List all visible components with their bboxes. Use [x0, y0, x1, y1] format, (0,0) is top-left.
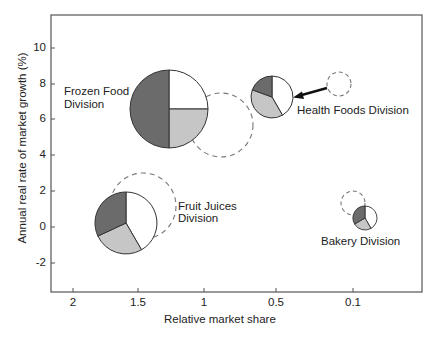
x-tick-label: 2 — [58, 296, 88, 308]
fruit-juices-label-line1: Fruit Juices — [178, 200, 237, 212]
x-tick-label: 0.1 — [338, 296, 368, 308]
bakery-label: Bakery Division — [321, 235, 400, 247]
health-foods-label: Health Foods Division — [297, 104, 409, 116]
frozen-food-label-line1: Frozen Food — [64, 85, 129, 97]
fruit-juices-pie — [95, 192, 157, 254]
x-tick-label: 1 — [189, 296, 219, 308]
health-foods-pie — [251, 76, 293, 118]
x-tick-label: 0.5 — [261, 296, 291, 308]
fruit-juices-label-line2: Division — [178, 212, 218, 224]
frozen-food-slice-dark — [130, 70, 169, 148]
frozen-food-pie — [130, 70, 208, 148]
health-foods-projected-circle — [327, 72, 351, 96]
x-axis-title: Relative market share — [164, 313, 276, 325]
bakery-pie — [353, 206, 377, 230]
y-axis-title: Annual real rate of market growth (%) — [16, 38, 28, 258]
frozen-food-slice-white — [169, 70, 208, 109]
chart-canvas — [0, 0, 436, 339]
x-tick-label: 1.5 — [123, 296, 153, 308]
health-foods-arrow — [293, 88, 327, 99]
frozen-food-slice-light — [169, 109, 208, 148]
plot-frame — [51, 15, 422, 292]
frozen-food-label-line2: Division — [64, 98, 104, 110]
